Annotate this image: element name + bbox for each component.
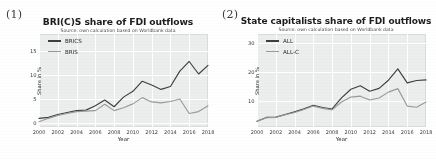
chart-2-plot: 102030 200020022004200620082010201220142… (257, 34, 426, 127)
panel-2: (2) State capitalists share of FDI outfl… (218, 0, 436, 159)
figure-two-panel-line-charts: (1) BRI(C)S share of FDI outflows Source… (0, 0, 436, 159)
chart-1-x-axis-label: Year (39, 136, 208, 142)
y-tick-label: 0 (33, 120, 36, 126)
legend-swatch-brics (48, 40, 61, 42)
chart-1-subtitle: Source: own calculation based on Worldba… (22, 28, 214, 33)
chart-2-titles: State capitalists share of FDI outflows … (240, 16, 432, 32)
y-tick-label: 30 (248, 40, 255, 46)
legend-label-bris: BRIS (65, 49, 78, 55)
chart-2-subtitle: Source: own calculation based on Worldba… (240, 27, 432, 32)
x-tick-label: 2012 (363, 129, 376, 135)
x-tick-label: 2006 (307, 129, 320, 135)
x-tick-label: 2000 (33, 129, 46, 135)
chart-1-y-axis-label: Share in % (36, 67, 42, 95)
chart-1-title: BRI(C)S share of FDI outflows (22, 16, 214, 27)
legend-label-all-c: ALL-C (283, 49, 299, 55)
panel-1-label: (1) (6, 8, 22, 21)
legend-item-all[interactable]: ALL (266, 38, 299, 44)
legend-label-brics: BRICS (65, 38, 82, 44)
chart-2-x-axis-label: Year (257, 136, 426, 142)
x-tick-label: 2010 (345, 129, 358, 135)
chart-1-legend: BRICS BRIS (48, 38, 82, 55)
x-tick-label: 2002 (51, 129, 64, 135)
legend-label-all: ALL (283, 38, 293, 44)
x-tick-label: 2000 (251, 129, 264, 135)
legend-swatch-bris (48, 51, 61, 53)
series-line-bris (39, 98, 208, 122)
x-tick-label: 2018 (420, 129, 433, 135)
x-tick-label: 2002 (269, 129, 282, 135)
x-tick-label: 2008 (326, 129, 339, 135)
x-tick-label: 2010 (127, 129, 140, 135)
y-tick-label: 15 (30, 48, 37, 54)
y-tick-label: 5 (33, 96, 36, 102)
panel-1: (1) BRI(C)S share of FDI outflows Source… (0, 0, 218, 159)
chart-1: BRI(C)S share of FDI outflows Source: ow… (22, 16, 214, 154)
chart-2-legend: ALL ALL-C (266, 38, 299, 55)
x-tick-label: 2008 (108, 129, 121, 135)
chart-2: State capitalists share of FDI outflows … (240, 16, 432, 154)
chart-1-titles: BRI(C)S share of FDI outflows Source: ow… (22, 16, 214, 33)
legend-item-all-c[interactable]: ALL-C (266, 49, 299, 55)
legend-swatch-all-c (266, 51, 279, 53)
x-tick-label: 2014 (164, 129, 177, 135)
chart-2-y-axis-label: Share in % (254, 67, 260, 95)
legend-swatch-all (266, 40, 279, 42)
chart-1-plot: 051015 200020022004200620082010201220142… (39, 34, 208, 127)
gridline-vertical (208, 34, 209, 127)
gridline-vertical (426, 34, 427, 127)
x-tick-label: 2004 (288, 129, 301, 135)
legend-item-brics[interactable]: BRICS (48, 38, 82, 44)
y-tick-label: 10 (248, 98, 255, 104)
x-tick-label: 2018 (202, 129, 215, 135)
panel-2-label: (2) (222, 8, 238, 21)
legend-item-bris[interactable]: BRIS (48, 49, 82, 55)
x-tick-label: 2016 (183, 129, 196, 135)
x-tick-label: 2016 (401, 129, 414, 135)
x-tick-label: 2012 (145, 129, 158, 135)
x-tick-label: 2006 (89, 129, 102, 135)
series-line-brics (39, 61, 208, 118)
chart-2-title: State capitalists share of FDI outflows (240, 16, 432, 26)
series-line-all-c (257, 89, 426, 122)
x-tick-label: 2004 (70, 129, 83, 135)
x-tick-label: 2014 (382, 129, 395, 135)
